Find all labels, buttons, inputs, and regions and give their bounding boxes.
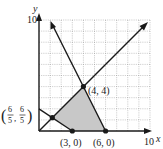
svg-text:): )	[27, 107, 32, 125]
point-3-0	[70, 128, 75, 133]
x-axis-label: x	[155, 133, 161, 144]
svg-text:6: 6	[20, 105, 24, 114]
label-6-5-6-5: ( 6 5 , 6 5 )	[1, 105, 32, 125]
x-max-label: 10	[144, 136, 154, 147]
svg-text:5: 5	[8, 116, 12, 125]
svg-text:(: (	[1, 107, 6, 125]
arrow-head-icon	[51, 21, 57, 30]
label-3-0: (3, 0)	[60, 137, 82, 149]
point-4-4	[81, 84, 86, 89]
y-axis-label: y	[32, 3, 38, 14]
y-max-label: 10	[27, 14, 37, 25]
label-6-0: (6, 0)	[93, 137, 115, 149]
svg-text:6: 6	[8, 105, 12, 114]
svg-text:,: ,	[14, 113, 16, 123]
point-6-5	[50, 115, 55, 120]
point-6-0	[103, 128, 108, 133]
svg-text:5: 5	[20, 116, 24, 125]
graph: y 10 10 x (4, 4) (3, 0) (6, 0) ( 6 5 , 6…	[0, 0, 163, 149]
label-4-4: (4, 4)	[88, 85, 110, 97]
